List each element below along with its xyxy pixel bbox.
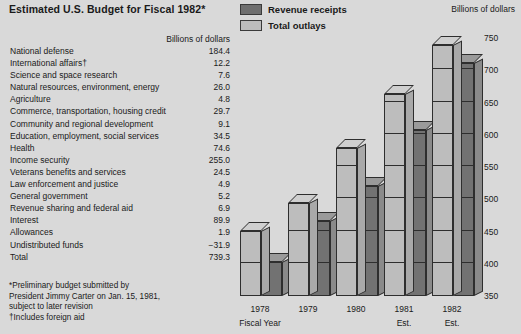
bar-side-face — [309, 199, 318, 296]
table-row-label: Allowances — [9, 226, 53, 238]
table-row: International affairs†12.2 — [9, 57, 231, 69]
bar-group — [336, 26, 382, 296]
bar-gridline — [337, 262, 356, 263]
table-row: Community and regional development9.1 — [9, 118, 231, 130]
y-axis-tick-label: 350 — [484, 292, 498, 300]
y-axis-tick-label: 500 — [484, 195, 498, 203]
table-row-value: 7.6 — [218, 69, 231, 81]
table-row-label: Community and regional development — [9, 118, 153, 130]
table-row-label: Veterans benefits and services — [9, 166, 126, 178]
bar-chart: 350400450500550600650700750 1978Fiscal Y… — [236, 26, 521, 334]
table-row-value: 184.4 — [209, 45, 231, 57]
x-axis-tick-label: 1981 — [382, 304, 426, 314]
legend-swatch-revenue-receipts — [240, 4, 262, 15]
table-row-value: 6.9 — [218, 202, 231, 214]
table-row: Agriculture4.8 — [9, 93, 231, 105]
bar-gridline — [433, 133, 452, 134]
bar-front-face — [336, 148, 357, 296]
table-row: Veterans benefits and services24.5 — [9, 166, 231, 178]
table-row-label: Law enforcement and justice — [9, 178, 118, 190]
bar-gridline — [289, 230, 308, 231]
x-axis-tick-label: 1982 — [430, 304, 474, 314]
chart-units-label: Billions of dollars — [451, 4, 515, 14]
table-row-value: 4.8 — [218, 93, 231, 105]
table-row: Science and space research7.6 — [9, 69, 231, 81]
table-row: Allowances1.9 — [9, 226, 231, 238]
bar-gridline — [433, 101, 452, 102]
bar-front-face — [384, 94, 405, 296]
table-row: Total739.3 — [9, 251, 231, 263]
bar-gridline — [433, 230, 452, 231]
chart-x-axis: 1978Fiscal Year197919801981Est.1982Est. — [236, 298, 479, 334]
footnote-line: *Preliminary budget submitted by — [9, 281, 160, 292]
bar-gridline — [385, 101, 404, 102]
table-row-label: General government — [9, 190, 88, 202]
table-row-label: Science and space research — [9, 69, 117, 81]
x-axis-tick-label: 1979 — [286, 304, 330, 314]
x-axis-sublabel: Est. — [382, 318, 426, 328]
bar-group — [432, 26, 478, 296]
bar-front-face — [288, 203, 309, 296]
bar-gridline — [433, 262, 452, 263]
bar-side-face — [405, 90, 414, 296]
y-axis-tick-label: 600 — [484, 131, 498, 139]
table-column-header: Billions of dollars — [9, 33, 231, 45]
table-row: Education, employment, social services34… — [9, 130, 231, 142]
table-row: National defense184.4 — [9, 45, 231, 57]
table-row-value: 26.0 — [213, 81, 231, 93]
table-row-value: 9.1 — [218, 118, 231, 130]
x-axis-tick-label: 1978 — [238, 304, 282, 314]
bar-gridline — [337, 230, 356, 231]
table-row: Law enforcement and justice4.9 — [9, 178, 231, 190]
table-row: Interest89.9 — [9, 214, 231, 226]
table-row-label: Education, employment, social services — [9, 130, 159, 142]
bar-total-outlays — [288, 194, 309, 296]
bar-gridline — [385, 165, 404, 166]
x-axis-sublabel: Fiscal Year — [238, 318, 282, 328]
legend-label-revenue-receipts: Revenue receipts — [268, 4, 347, 15]
x-axis-sublabel: Est. — [430, 318, 474, 328]
bar-side-face — [261, 226, 270, 296]
table-row-value: 24.5 — [213, 166, 231, 178]
bar-gridline — [433, 165, 452, 166]
budget-table: Billions of dollars National defense184.… — [9, 33, 231, 263]
table-row-value: 255.0 — [209, 154, 231, 166]
table-row-value: 5.2 — [218, 190, 231, 202]
infographic-page: Estimated U.S. Budget for Fiscal 1982* R… — [0, 0, 521, 334]
bar-group — [384, 26, 430, 296]
bar-gridline — [385, 262, 404, 263]
table-row: Income security255.0 — [9, 154, 231, 166]
bar-gridline — [337, 165, 356, 166]
table-row-value: 29.7 — [213, 105, 231, 117]
table-row-label: Interest — [9, 214, 38, 226]
bar-group — [240, 26, 286, 296]
chart-plot-area — [236, 26, 479, 296]
table-row: Commerce, transportation, housing credit… — [9, 105, 231, 117]
table-row-label: Health — [9, 142, 35, 154]
bar-gridline — [241, 262, 260, 263]
table-row: Undistributed funds−31.9 — [9, 239, 231, 251]
y-axis-tick-label: 400 — [484, 260, 498, 268]
table-row-value: 4.9 — [218, 178, 231, 190]
table-row-value: −31.9 — [208, 239, 231, 251]
footnote-line: †Includes foreign aid — [9, 313, 160, 324]
bar-total-outlays — [336, 139, 357, 296]
footnotes: *Preliminary budget submitted byPresiden… — [9, 281, 160, 323]
table-row: Natural resources, environment, energy26… — [9, 81, 231, 93]
bar-total-outlays — [432, 36, 453, 296]
y-axis-tick-label: 700 — [484, 66, 498, 74]
bar-total-outlays — [384, 85, 405, 296]
footnote-line: President Jimmy Carter on Jan. 15, 1981, — [9, 292, 160, 303]
table-row-value: 74.6 — [213, 142, 231, 154]
table-row-value: 89.9 — [213, 214, 231, 226]
table-row-label: Natural resources, environment, energy — [9, 81, 159, 93]
table-row-label: Undistributed funds — [9, 239, 83, 251]
bar-side-face — [357, 143, 366, 296]
table-row: General government5.2 — [9, 190, 231, 202]
table-row-value: 12.2 — [213, 57, 231, 69]
bar-gridline — [385, 197, 404, 198]
bar-gridline — [337, 197, 356, 198]
bar-front-face — [432, 45, 453, 296]
table-row: Health74.6 — [9, 142, 231, 154]
bar-gridline — [433, 197, 452, 198]
